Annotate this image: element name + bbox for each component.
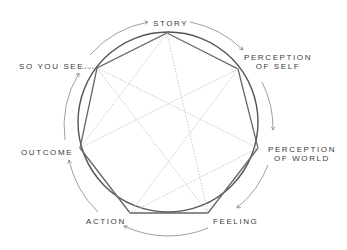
arrow-world-to-feeling <box>237 165 268 208</box>
label-action: ACTION <box>86 217 126 226</box>
label-line: OF SELF <box>244 62 312 71</box>
label-line: PERCEPTION <box>268 145 336 154</box>
label-outcome: OUTCOME <box>21 148 73 157</box>
label-story: STORY <box>153 19 188 28</box>
label-perception-of-world: PERCEPTION OF WORLD <box>268 145 336 163</box>
cycle-diagram <box>0 0 347 250</box>
label-perception-of-self: PERCEPTION OF SELF <box>244 53 312 71</box>
label-so-you-see: SO YOU SEE.... <box>19 62 100 71</box>
arrow-so-you-see-to-story <box>90 22 148 55</box>
inner-circle <box>78 32 258 212</box>
arrow-feeling-to-action <box>124 226 208 236</box>
label-line: PERCEPTION <box>244 53 312 62</box>
arrow-self-to-world <box>262 82 273 130</box>
arrow-action-to-outcome <box>69 160 98 212</box>
label-feeling: FEELING <box>213 217 258 226</box>
arrow-outcome-to-so-you-see <box>64 73 79 140</box>
label-line: OF WORLD <box>268 154 336 163</box>
